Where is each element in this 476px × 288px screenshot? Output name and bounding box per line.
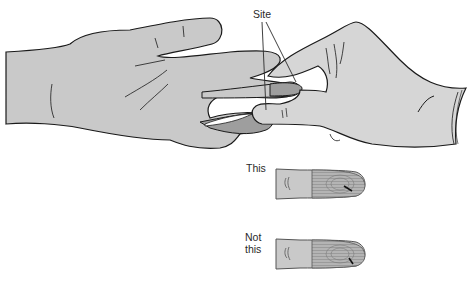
not-this-line1: Not xyxy=(245,231,275,243)
patient-hand xyxy=(6,18,302,148)
not-this-label: Not this xyxy=(245,231,275,255)
fingertip-correct xyxy=(276,169,365,199)
fingertip-incorrect xyxy=(276,239,365,269)
this-label: This xyxy=(246,162,266,174)
hand-illustration xyxy=(0,0,476,288)
site-label: Site xyxy=(253,8,271,20)
not-this-line2: this xyxy=(245,243,275,255)
